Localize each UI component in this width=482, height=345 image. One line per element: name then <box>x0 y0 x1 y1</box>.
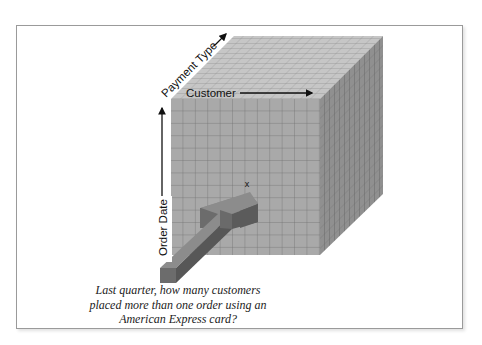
axis-label-customer: Customer <box>186 87 236 99</box>
axis-order-date: Order Date <box>150 108 172 262</box>
figure-caption: Last quarter, how many customers placed … <box>80 283 276 327</box>
cube-front-face <box>171 99 320 255</box>
caption-line: placed more than one order using an <box>80 298 276 313</box>
point-marker: x <box>245 179 250 189</box>
caption-line: American Express card? <box>80 312 276 327</box>
axis-label-order-date: Order Date <box>157 199 169 256</box>
caption-line: Last quarter, how many customers <box>80 283 276 298</box>
